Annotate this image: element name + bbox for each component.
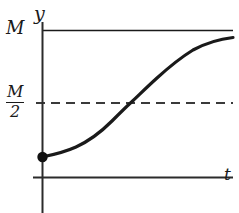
fraction-numerator: M	[6, 84, 24, 102]
half-asymptote-label-m-over-2: M 2	[6, 84, 24, 121]
logistic-growth-figure: M y t M 2	[0, 0, 239, 213]
asymptote-label-m: M	[6, 19, 24, 37]
y-axis-label: y	[34, 4, 45, 23]
initial-value-point-marker	[37, 152, 47, 162]
t-axis-label: t	[224, 166, 231, 183]
plot-canvas	[0, 0, 239, 213]
logistic-curve	[42, 38, 233, 158]
fraction-denominator: 2	[9, 103, 21, 121]
